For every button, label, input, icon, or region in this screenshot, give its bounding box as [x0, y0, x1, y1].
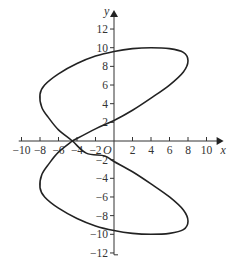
y-axis-label: y: [103, 4, 110, 18]
y-axis-arrow-icon: [110, 10, 118, 17]
svg-text:2: 2: [102, 116, 108, 128]
y-tick: 12: [97, 23, 115, 35]
y-tick: 6: [102, 79, 114, 91]
svg-text:8: 8: [185, 144, 191, 156]
y-tick: −8: [96, 210, 114, 222]
svg-text:−4: −4: [96, 172, 108, 184]
chart: −10−8−6−4−2246810−12−10−8−6−4−224681012x…: [0, 0, 238, 272]
svg-text:10: 10: [201, 144, 213, 156]
y-tick: 4: [102, 98, 114, 110]
svg-text:4: 4: [102, 98, 108, 110]
x-tick: 8: [185, 137, 191, 156]
x-tick: −8: [34, 137, 46, 156]
svg-text:10: 10: [97, 42, 109, 54]
svg-text:2: 2: [130, 144, 136, 156]
x-tick: 10: [201, 137, 213, 156]
svg-text:−12: −12: [90, 247, 108, 259]
svg-text:−10: −10: [13, 144, 31, 156]
svg-text:8: 8: [102, 60, 108, 72]
origin-label: O: [103, 143, 112, 157]
svg-text:−8: −8: [34, 144, 46, 156]
x-tick: 6: [167, 137, 173, 156]
y-tick: −12: [90, 247, 114, 259]
x-axis-label: x: [220, 143, 227, 157]
svg-text:6: 6: [102, 79, 108, 91]
y-tick: −4: [96, 172, 114, 184]
x-tick: 4: [148, 137, 154, 156]
svg-text:4: 4: [148, 144, 154, 156]
x-tick: −10: [13, 137, 31, 156]
svg-text:12: 12: [97, 23, 109, 35]
x-tick: 2: [130, 137, 136, 156]
y-tick: −6: [96, 191, 114, 203]
svg-text:−10: −10: [90, 228, 108, 240]
svg-text:−6: −6: [96, 191, 108, 203]
svg-text:−8: −8: [96, 210, 108, 222]
y-tick: 8: [102, 60, 114, 72]
svg-text:6: 6: [167, 144, 173, 156]
svg-text:−6: −6: [52, 144, 64, 156]
